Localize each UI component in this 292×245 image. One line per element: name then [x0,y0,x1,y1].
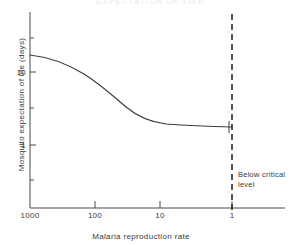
x-axis-title: Malaria reproduction rate [66,232,216,241]
x-tick-label-100: 100 [81,211,109,220]
chart-plot-area [0,0,292,245]
critical-level-annotation-line2: level [238,180,290,190]
critical-level-annotation: Below critical level [238,170,290,190]
critical-level-annotation-line1: Below critical [238,170,290,180]
x-tick-label-1: 1 [223,211,241,220]
data-curve-expectation-of-life [30,55,232,127]
chart-figure: EXPECTATION OF LIFE 10 1 1000 100 10 1 M… [0,0,292,245]
y-axis-title: Mosquito expectation of life (days) [17,30,26,180]
x-tick-label-10: 10 [149,211,171,220]
x-tick-label-1000: 1000 [14,211,46,220]
